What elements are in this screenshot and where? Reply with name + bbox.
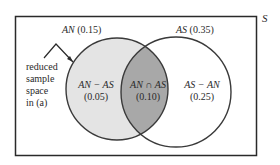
region-as-minus-an-prob: (0.25)	[190, 91, 214, 103]
set-an-name: AN	[61, 24, 76, 35]
sample-space-label: S	[262, 12, 268, 24]
region-an-minus-as-expr: AN − AS	[77, 79, 113, 90]
set-as-label: AS (0.35)	[175, 24, 214, 36]
region-an-minus-as-prob: (0.05)	[84, 91, 108, 103]
annotation-line-4: in (a)	[26, 97, 47, 109]
region-as-minus-an-expr: AS − AN	[183, 79, 221, 90]
set-an-label: AN (0.15)	[61, 24, 101, 36]
set-an-prob: (0.15)	[77, 24, 101, 36]
venn-diagram-figure: S AN (0.15) AS (0.35) reduced sample spa…	[0, 0, 280, 165]
annotation-line-1: reduced	[26, 61, 58, 72]
annotation-line-3: space	[26, 85, 49, 96]
set-as-name: AS	[175, 24, 187, 35]
region-an-cap-as-prob: (0.10)	[136, 91, 160, 103]
region-an-cap-as-expr: AN ∩ AS	[129, 79, 166, 90]
set-as-prob: (0.35)	[190, 24, 214, 36]
annotation-line-2: sample	[26, 73, 55, 84]
